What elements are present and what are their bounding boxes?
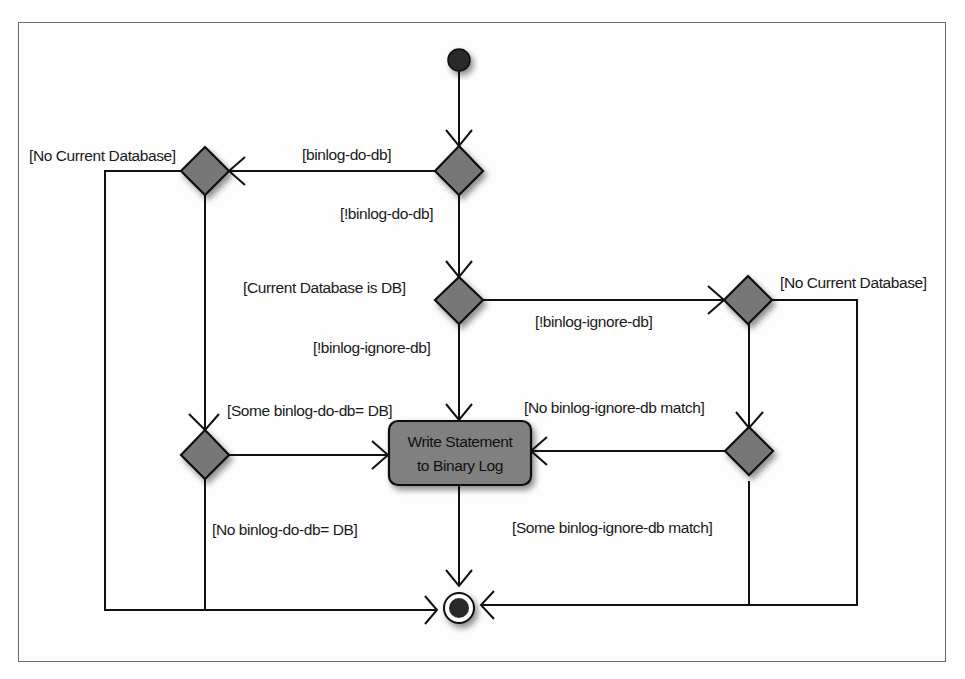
edge-d5-no-current-db-to-end (481, 300, 857, 605)
label-not-binlog-ignore-db-right: [!binlog-ignore-db] (535, 313, 652, 330)
label-binlog-do-db: [binlog-do-db] (302, 146, 391, 163)
decision-d1 (435, 146, 483, 195)
label-not-binlog-ignore-db-down: [!binlog-ignore-db] (313, 339, 430, 356)
decision-d5 (724, 276, 772, 324)
decision-d3 (435, 277, 483, 324)
edge-d2-no-current-db-to-end (105, 171, 437, 610)
label-no-current-db-left: [No Current Database] (29, 147, 176, 164)
label-not-binlog-do-db: [!binlog-do-db] (340, 205, 433, 222)
label-no-binlog-do-db: [No binlog-do-db= DB] (212, 521, 357, 538)
action-write-statement: Write Statement to Binary Log (389, 421, 531, 485)
label-no-current-db-right: [No Current Database] (780, 274, 927, 291)
label-some-binlog-do-db: [Some binlog-do-db= DB] (227, 402, 392, 419)
label-some-binlog-ignore-match: [Some binlog-ignore-db match] (512, 519, 712, 536)
label-current-db-is-db: [Current Database is DB] (243, 279, 406, 296)
decision-d4 (181, 430, 229, 479)
arrowheads (189, 130, 763, 624)
label-no-binlog-ignore-match: [No binlog-ignore-db match] (524, 399, 705, 416)
final-node (444, 593, 474, 623)
action-label-line2: to Binary Log (417, 457, 503, 474)
action-label-line1: Write Statement (408, 433, 514, 450)
decision-d6 (725, 427, 773, 475)
initial-node (448, 49, 470, 71)
decision-d2 (181, 147, 229, 195)
activity-diagram: Write Statement to Binary Log [No Curren… (0, 0, 965, 679)
